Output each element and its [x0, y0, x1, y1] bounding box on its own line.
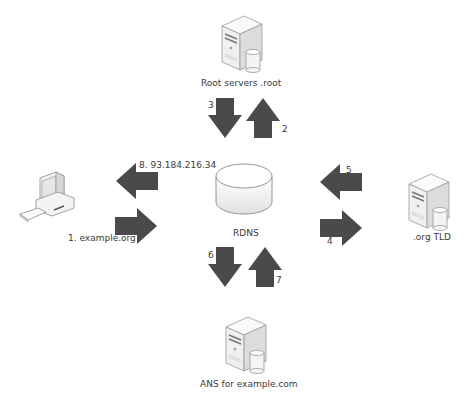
- database-cylinder-icon: [214, 162, 274, 218]
- computer-icon: [16, 170, 78, 230]
- tld-server-label: .org TLD: [413, 232, 451, 242]
- step-2-label: 2: [282, 124, 288, 134]
- tld-server-icon: [405, 170, 455, 232]
- root-server-label: Root servers .root: [201, 78, 281, 88]
- step-4-label: 4: [327, 236, 333, 246]
- step-6-label: 6: [208, 250, 214, 260]
- ans-server-icon: [222, 313, 272, 375]
- root-server-icon: [218, 12, 268, 74]
- step-7-label: 7: [276, 275, 282, 285]
- ans-server-label: ANS for example.com: [200, 379, 298, 389]
- arrow-up-icon: [246, 98, 280, 138]
- rdns-label: RDNS: [233, 228, 259, 238]
- arrow-left-icon: [320, 164, 362, 200]
- step-5-label: 5: [346, 165, 352, 175]
- step-3-label: 3: [208, 100, 214, 110]
- step-1-label: 1. example.org: [68, 233, 136, 243]
- step-8-label: 8. 93.184.216.34: [139, 160, 216, 170]
